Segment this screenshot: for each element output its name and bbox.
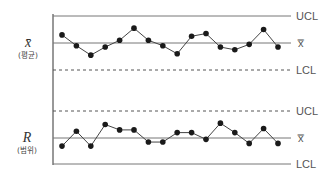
range-data-point xyxy=(261,126,267,132)
range-data-point xyxy=(189,130,195,136)
xbar-data-point xyxy=(203,31,209,37)
xbar-cl-label: x̿ xyxy=(297,37,305,49)
xbar-data-point xyxy=(74,43,80,49)
xbar-data-point xyxy=(59,32,65,38)
xbar-data-point xyxy=(189,33,195,39)
range-data-point xyxy=(88,143,94,149)
xbar-data-point xyxy=(275,44,281,50)
range-data-point xyxy=(218,120,224,126)
xbar-data-point xyxy=(102,44,108,50)
xbar-data-point xyxy=(261,27,267,33)
xbar-data-point xyxy=(174,51,180,57)
control-chart: UCL x̿ LCL UCL x̿ LCL x̄ (평균) R (범위) xyxy=(0,0,324,178)
range-data-point xyxy=(174,130,180,136)
range-data-point xyxy=(74,128,80,134)
range-data-point xyxy=(160,139,166,145)
range-data-point xyxy=(232,130,238,136)
xbar-data-point xyxy=(88,52,94,58)
xbar-data-point xyxy=(117,38,123,44)
range-data-point xyxy=(146,139,152,145)
range-data-point xyxy=(117,127,123,133)
range-ucl-label: UCL xyxy=(296,105,318,117)
xbar-ucl-label: UCL xyxy=(296,10,318,22)
range-data-point xyxy=(246,141,252,147)
xbar-data-point xyxy=(160,43,166,49)
xbar-series-line xyxy=(62,28,278,55)
xbar-data-point xyxy=(246,42,252,48)
xbar-data-point xyxy=(146,38,152,44)
xbar-data-point xyxy=(232,47,238,53)
range-data-point xyxy=(131,127,137,133)
range-series-line xyxy=(62,123,278,146)
range-cl-label: x̿ xyxy=(297,132,305,144)
range-data-point xyxy=(59,143,65,149)
range-data-point xyxy=(102,122,108,128)
xbar-data-point xyxy=(131,25,137,31)
range-data-point xyxy=(275,141,281,147)
range-axis-label: R xyxy=(22,130,32,145)
xbar-data-point xyxy=(218,44,224,50)
range-lcl-label: LCL xyxy=(296,158,316,170)
xbar-lcl-label: LCL xyxy=(296,64,316,76)
xbar-axis-label: x̄ xyxy=(24,35,32,50)
range-axis-sublabel: (범위) xyxy=(17,145,37,155)
xbar-axis-sublabel: (평균) xyxy=(18,50,38,60)
range-data-point xyxy=(203,137,209,143)
